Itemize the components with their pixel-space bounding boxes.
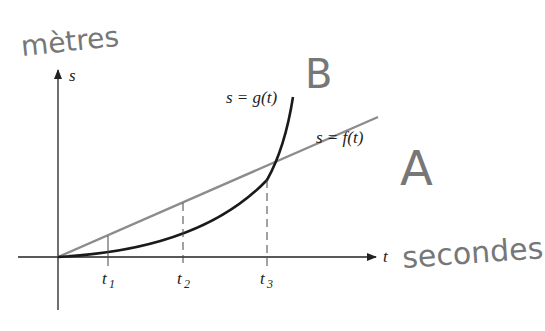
tick-t3: t 3 (260, 269, 273, 291)
svg-text:1: 1 (109, 277, 115, 291)
distance-time-diagram: s t t 1 t 2 t 3 s = g(t) s = f(t) mètres… (0, 0, 545, 331)
svg-text:t: t (260, 269, 266, 288)
y-axis-label: s (69, 66, 76, 85)
svg-text:t: t (102, 269, 108, 288)
curve-g (58, 97, 293, 257)
curve-g-tag: B (305, 51, 332, 97)
svg-text:3: 3 (266, 277, 273, 291)
curve-g-label: s = g(t) (226, 88, 277, 107)
curve-f-label: s = f(t) (316, 128, 364, 147)
tick-t2: t 2 (177, 269, 190, 291)
x-unit-annotation: secondes (401, 230, 544, 275)
svg-text:2: 2 (184, 277, 190, 291)
y-unit-annotation: mètres (19, 20, 120, 63)
curve-f-tag: A (400, 140, 433, 196)
tick-t1: t 1 (102, 269, 115, 291)
svg-text:t: t (177, 269, 183, 288)
x-axis-label: t (383, 247, 389, 266)
